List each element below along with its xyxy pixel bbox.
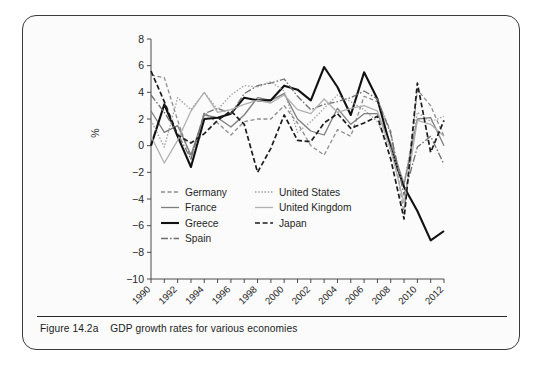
legend-label-spain: Spain [185, 233, 211, 244]
series-line-greece [151, 67, 444, 240]
y-tick-label: 6 [138, 59, 144, 71]
x-tick-label: 2002 [289, 284, 312, 307]
gdp-growth-line-chart: 86420−2−4−6−8−10 19901992199419961998200… [23, 16, 521, 316]
series-lines [151, 67, 444, 240]
chart-plot-region: 86420−2−4−6−8−10 19901992199419961998200… [23, 16, 521, 316]
y-tick-label: 4 [138, 86, 144, 98]
y-tick-label: −10 [126, 273, 144, 285]
y-tick-label: 8 [138, 33, 144, 45]
y-tick-label: −4 [132, 193, 144, 205]
legend-label-germany: Germany [185, 187, 228, 198]
x-tick-label: 1998 [236, 284, 259, 307]
x-tick-label: 1996 [209, 284, 232, 307]
x-tick-label: 1992 [156, 284, 179, 307]
y-axis-title: % [89, 128, 101, 137]
y-tick-label: −2 [132, 166, 144, 178]
caption-divider [37, 316, 507, 317]
y-tick-label: 2 [138, 113, 144, 125]
x-tick-label: 1990 [130, 284, 153, 307]
x-tick-label: 2008 [369, 284, 392, 307]
legend-label-united-kingdom: United Kingdom [279, 202, 352, 213]
x-axis: 1990199219941996199820002002200420062008… [130, 279, 446, 307]
y-tick-label: −8 [132, 246, 144, 258]
figure-caption: Figure 14.2a GDP growth rates for variou… [40, 323, 297, 334]
figure-card: 86420−2−4−6−8−10 19901992199419961998200… [22, 15, 520, 350]
series-line-france [151, 94, 444, 185]
legend-label-japan: Japan [279, 218, 307, 229]
legend-label-france: France [185, 202, 217, 213]
caption-label: Figure 14.2a [40, 323, 98, 334]
legend-label-greece: Greece [185, 218, 219, 229]
chart-legend: GermanyFranceGreeceSpainUnited StatesUni… [161, 187, 352, 245]
caption-text: GDP growth rates for various economies [110, 323, 297, 334]
y-tick-label: −6 [132, 219, 144, 231]
x-tick-label: 1994 [183, 283, 206, 306]
series-line-spain [151, 79, 444, 195]
x-tick-label: 2012 [423, 284, 446, 307]
x-tick-label: 2004 [316, 283, 339, 306]
x-tick-label: 2000 [263, 284, 286, 307]
x-tick-label: 2010 [396, 284, 419, 307]
y-axis: 86420−2−4−6−8−10 [126, 33, 151, 285]
x-tick-label: 2006 [343, 284, 366, 307]
y-axis-title-label: % [89, 128, 101, 137]
y-tick-label: 0 [138, 139, 144, 151]
legend-label-united-states: United States [279, 187, 340, 198]
